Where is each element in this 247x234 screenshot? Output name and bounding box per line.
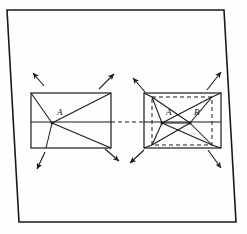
edge-B-to-bottom-right bbox=[190, 123, 212, 145]
arrow-up-left bbox=[33, 73, 44, 86]
figure-canvas: A bbox=[0, 0, 247, 234]
outer-border-quadrilateral bbox=[7, 10, 236, 222]
left-label-A: A bbox=[56, 107, 63, 117]
arrow-down-left bbox=[37, 152, 45, 169]
right-vertex-point-A bbox=[161, 122, 164, 125]
right-label-A: A bbox=[165, 107, 172, 117]
arrow-up-right bbox=[207, 72, 221, 90]
right-rectangle-figure: A B bbox=[130, 72, 221, 168]
ray-to-top-left-corner bbox=[31, 93, 52, 123]
diagonal-B-to-bottom-left bbox=[152, 123, 190, 145]
left-rectangle-outline bbox=[31, 93, 111, 148]
ray-to-bottom-left bbox=[46, 123, 52, 148]
diagonal-A-to-bottom-right bbox=[162, 123, 212, 145]
arrow-down-right bbox=[105, 149, 119, 161]
ray-to-bottom-right-corner bbox=[52, 123, 111, 148]
arrow-down-left bbox=[130, 150, 144, 163]
left-vertex-point bbox=[51, 122, 54, 125]
diagram-svg: A bbox=[0, 0, 247, 234]
arrow-down-right bbox=[208, 150, 221, 168]
right-rectangle-outline bbox=[144, 93, 221, 148]
arrow-up-left bbox=[133, 78, 145, 92]
arrow-up-right bbox=[99, 74, 114, 89]
right-label-B: B bbox=[194, 107, 200, 117]
left-rectangle-figure: A bbox=[31, 73, 119, 169]
right-vertex-point-B bbox=[189, 122, 192, 125]
